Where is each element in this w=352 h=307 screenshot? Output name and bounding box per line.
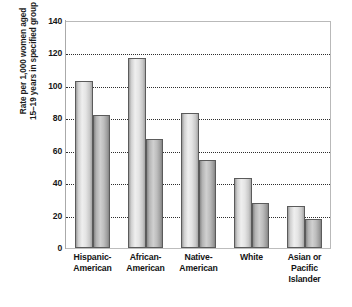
x-axis-line	[66, 248, 331, 249]
y-axis-tick-label: 140	[38, 16, 62, 26]
bar	[75, 81, 93, 248]
bar	[305, 219, 323, 248]
x-axis-category-label-line: Asian or	[270, 252, 339, 263]
bar-group	[234, 21, 269, 248]
x-axis-category-label: Asian orPacificIslander	[270, 252, 339, 285]
bar	[146, 139, 164, 248]
y-axis-title-line-1: Rate per 1,000 women aged	[18, 8, 28, 114]
y-axis-tick-label: 80	[38, 113, 62, 123]
x-axis-category-label-line: American	[164, 263, 233, 274]
bar	[199, 160, 217, 248]
x-axis-category-label-line: Islander	[270, 274, 339, 285]
bar-group	[75, 21, 110, 248]
bar-group	[181, 21, 216, 248]
bar	[287, 206, 305, 248]
bar	[252, 203, 270, 248]
bar-chart: Rate per 1,000 women aged 15–19 years in…	[0, 0, 352, 307]
y-axis-tick-label: 20	[38, 211, 62, 221]
y-axis-tick-label: 60	[38, 146, 62, 156]
bars-layer	[66, 21, 331, 248]
x-axis-category-labels: Hispanic-AmericanAfrican-AmericanNative-…	[66, 252, 331, 307]
y-axis-tick-label: 40	[38, 178, 62, 188]
bar-group	[287, 21, 322, 248]
bar	[234, 178, 252, 248]
bar	[181, 113, 199, 248]
bar-group	[128, 21, 163, 248]
y-axis-tick-label: 120	[38, 48, 62, 58]
y-axis-tick-label: 100	[38, 81, 62, 91]
bar	[128, 58, 146, 248]
bar	[93, 115, 111, 248]
x-axis-category-label-line: Pacific	[270, 263, 339, 274]
y-axis-title-line-2: 15–19 years in specified group	[28, 2, 38, 120]
